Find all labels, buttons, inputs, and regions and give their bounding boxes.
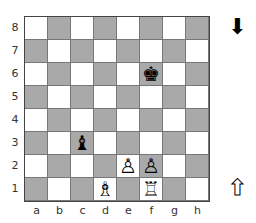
square-g3[interactable] [163,132,186,155]
square-b5[interactable] [48,86,71,109]
square-g5[interactable] [163,86,186,109]
square-e6[interactable] [117,63,140,86]
square-h8[interactable] [186,17,209,40]
rank-label-1: 1 [10,182,20,195]
rank-label-8: 8 [10,21,20,34]
square-h1[interactable] [186,178,209,201]
square-e1[interactable] [117,178,140,201]
square-g8[interactable] [163,17,186,40]
square-e8[interactable] [117,17,140,40]
square-d3[interactable] [94,132,117,155]
square-f4[interactable] [140,109,163,132]
white-pawn-icon[interactable]: ♙ [142,156,160,176]
square-c1[interactable] [71,178,94,201]
black-to-move-arrow-icon: ⬇ [228,16,246,38]
square-a2[interactable] [25,155,48,178]
file-label-e: e [117,204,140,217]
file-label-a: a [25,204,48,217]
square-c4[interactable] [71,109,94,132]
square-e4[interactable] [117,109,140,132]
square-f5[interactable] [140,86,163,109]
chess-board: ♚♝♙♙♗♖ [24,16,210,202]
square-h2[interactable] [186,155,209,178]
square-b3[interactable] [48,132,71,155]
square-a5[interactable] [25,86,48,109]
square-c7[interactable] [71,40,94,63]
square-e2[interactable]: ♙ [117,155,140,178]
square-f8[interactable] [140,17,163,40]
square-f3[interactable] [140,132,163,155]
square-h5[interactable] [186,86,209,109]
square-f1[interactable]: ♖ [140,178,163,201]
square-d4[interactable] [94,109,117,132]
square-d7[interactable] [94,40,117,63]
square-b6[interactable] [48,63,71,86]
square-d5[interactable] [94,86,117,109]
rank-label-3: 3 [10,136,20,149]
file-label-c: c [71,204,94,217]
square-d6[interactable] [94,63,117,86]
square-h3[interactable] [186,132,209,155]
square-h6[interactable] [186,63,209,86]
square-a1[interactable] [25,178,48,201]
square-a6[interactable] [25,63,48,86]
square-a7[interactable] [25,40,48,63]
square-g6[interactable] [163,63,186,86]
square-c2[interactable] [71,155,94,178]
rank-label-7: 7 [10,44,20,57]
file-label-d: d [94,204,117,217]
square-b1[interactable] [48,178,71,201]
rank-label-4: 4 [10,113,20,126]
square-c6[interactable] [71,63,94,86]
white-pawn-icon[interactable]: ♙ [119,156,137,176]
square-c8[interactable] [71,17,94,40]
square-a8[interactable] [25,17,48,40]
square-g7[interactable] [163,40,186,63]
file-label-b: b [48,204,71,217]
square-b4[interactable] [48,109,71,132]
square-f6[interactable]: ♚ [140,63,163,86]
square-h4[interactable] [186,109,209,132]
square-d8[interactable] [94,17,117,40]
square-a4[interactable] [25,109,48,132]
square-d2[interactable] [94,155,117,178]
file-label-g: g [163,204,186,217]
square-d1[interactable]: ♗ [94,178,117,201]
file-label-f: f [140,204,163,217]
white-side-arrow-icon: ⬆ [228,177,246,199]
square-c3[interactable]: ♝ [71,132,94,155]
square-f7[interactable] [140,40,163,63]
square-h7[interactable] [186,40,209,63]
square-b8[interactable] [48,17,71,40]
white-rook-icon[interactable]: ♖ [142,179,160,199]
square-e7[interactable] [117,40,140,63]
black-bishop-icon[interactable]: ♝ [73,133,91,153]
square-b2[interactable] [48,155,71,178]
square-g1[interactable] [163,178,186,201]
rank-label-2: 2 [10,159,20,172]
square-b7[interactable] [48,40,71,63]
square-e5[interactable] [117,86,140,109]
black-king-icon[interactable]: ♚ [142,64,160,84]
white-bishop-icon[interactable]: ♗ [96,179,114,199]
square-f2[interactable]: ♙ [140,155,163,178]
file-label-h: h [186,204,209,217]
rank-label-5: 5 [10,90,20,103]
square-g2[interactable] [163,155,186,178]
square-a3[interactable] [25,132,48,155]
rank-label-6: 6 [10,67,20,80]
square-e3[interactable] [117,132,140,155]
square-c5[interactable] [71,86,94,109]
square-g4[interactable] [163,109,186,132]
